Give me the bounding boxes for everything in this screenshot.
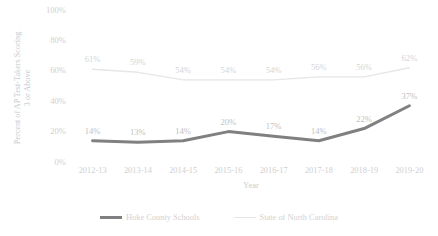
y-axis-tick: 40%	[36, 97, 66, 106]
series-lines	[70, 10, 432, 162]
data-label: 14%	[73, 127, 113, 136]
y-axis-title-line1: Percent of AP Test-Takers Scoring	[13, 3, 23, 173]
y-axis-tick-labels: 0%20%40%60%80%100%	[36, 0, 66, 236]
line-chart: Percent of AP Test-Takers Scoring 3 or A…	[0, 0, 438, 236]
data-label: 59%	[118, 58, 158, 67]
x-axis-tick-labels: 2012-132013-142014-152015-162016-172017-…	[70, 166, 432, 180]
data-label: 14%	[163, 127, 203, 136]
data-label: 20%	[208, 118, 248, 127]
legend-swatch-icon	[234, 217, 256, 218]
data-label: 17%	[254, 122, 294, 131]
x-axis-tick: 2019-20	[379, 166, 438, 176]
data-label: 61%	[73, 55, 113, 64]
y-axis-tick: 60%	[36, 66, 66, 75]
data-label: 56%	[344, 63, 384, 72]
data-label: 54%	[208, 66, 248, 75]
y-axis-tick: 0%	[36, 158, 66, 167]
data-label: 54%	[163, 66, 203, 75]
y-axis-title: Percent of AP Test-Takers Scoring 3 or A…	[13, 3, 33, 173]
legend-item[interactable]: State of North Carolina	[234, 213, 338, 222]
legend-swatch-icon	[100, 216, 122, 219]
data-label: 56%	[299, 63, 339, 72]
data-label: 54%	[254, 66, 294, 75]
x-axis-title: Year	[70, 180, 432, 190]
y-axis-title-line2: 3 or Above	[23, 3, 33, 173]
legend-label: State of North Carolina	[260, 213, 338, 222]
data-label: 14%	[299, 127, 339, 136]
data-label: 62%	[389, 54, 429, 63]
plot-area: 14%13%14%20%17%14%22%37%61%59%54%54%54%5…	[70, 10, 432, 162]
y-axis-tick: 80%	[36, 36, 66, 45]
legend-item[interactable]: Hoke County Schools	[100, 213, 200, 222]
data-label: 13%	[118, 128, 158, 137]
data-label: 22%	[344, 115, 384, 124]
y-axis-tick: 100%	[36, 6, 66, 15]
y-axis-tick: 20%	[36, 127, 66, 136]
data-label: 37%	[389, 92, 429, 101]
chart-legend: Hoke County SchoolsState of North Caroli…	[0, 209, 438, 225]
legend-label: Hoke County Schools	[126, 213, 200, 222]
